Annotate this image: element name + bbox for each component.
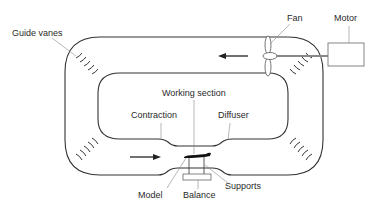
label-working-section: Working section — [162, 88, 226, 98]
guide-vanes-top-left — [76, 53, 98, 74]
guide-vanes-bottom-left — [76, 138, 98, 160]
label-guide-vanes: Guide vanes — [12, 28, 63, 38]
label-diffuser: Diffuser — [218, 110, 249, 120]
flow-arrow-bottom — [130, 154, 161, 160]
label-model: Model — [138, 190, 163, 200]
label-motor: Motor — [334, 13, 357, 23]
leader-diffuser — [228, 123, 230, 140]
label-contraction: Contraction — [131, 110, 177, 120]
motor-box — [328, 43, 364, 66]
guide-vanes-bottom-right — [290, 138, 312, 160]
inner-duct-wall — [98, 73, 288, 146]
label-supports: Supports — [225, 181, 261, 191]
leader-fan — [270, 24, 290, 44]
label-fan: Fan — [287, 13, 303, 23]
label-balance: Balance — [183, 190, 216, 200]
flow-arrow-top — [218, 53, 248, 59]
fan-icon — [263, 36, 277, 76]
balance-box — [183, 174, 211, 180]
supports — [189, 157, 204, 174]
leader-model — [167, 158, 186, 188]
model-icon — [184, 153, 211, 158]
